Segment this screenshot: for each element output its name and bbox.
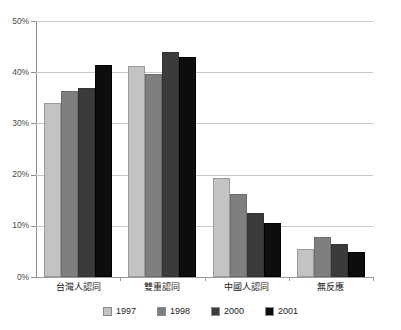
y-tick-mark	[31, 123, 36, 124]
plot-area	[36, 21, 373, 277]
bar-group	[297, 21, 365, 277]
bar-2000-中國人認同[interactable]	[247, 213, 264, 277]
y-tick-mark	[31, 226, 36, 227]
bar-group	[44, 21, 112, 277]
legend-label: 2001	[278, 306, 298, 316]
legend-label: 1998	[170, 306, 190, 316]
bar-2000-無反應[interactable]	[331, 244, 348, 277]
legend-label: 2000	[224, 306, 244, 316]
category-axis-labels: 台灣人認同雙重認同中國人認同無反應	[36, 280, 373, 296]
x-tick-mark	[289, 277, 290, 281]
category-label-4: 無反應	[289, 280, 373, 294]
bar-2000-台灣人認同[interactable]	[78, 88, 95, 277]
legend-swatch-icon	[157, 307, 166, 316]
bar-1997-中國人認同[interactable]	[213, 178, 230, 277]
x-tick-mark	[373, 277, 374, 281]
bar-2001-台灣人認同[interactable]	[95, 65, 112, 277]
bar-2001-雙重認同[interactable]	[179, 57, 196, 277]
legend-label: 1997	[116, 306, 136, 316]
category-label-1: 台灣人認同	[36, 280, 120, 294]
x-tick-mark	[120, 277, 121, 281]
y-tick-label: 0%	[1, 273, 29, 282]
y-tick-mark	[31, 72, 36, 73]
bar-group	[128, 21, 196, 277]
legend-item-2001[interactable]: 2001	[265, 306, 298, 316]
y-tick-label: 10%	[1, 221, 29, 230]
bar-2001-中國人認同[interactable]	[264, 223, 281, 277]
bar-1997-台灣人認同[interactable]	[44, 103, 61, 277]
bar-2000-雙重認同[interactable]	[162, 52, 179, 277]
x-tick-mark	[205, 277, 206, 281]
category-label-3: 中國人認同	[205, 280, 289, 294]
y-tick-label: 40%	[1, 68, 29, 77]
y-tick-mark	[31, 277, 36, 278]
bar-1998-台灣人認同[interactable]	[61, 91, 78, 277]
legend-item-1998[interactable]: 1998	[157, 306, 190, 316]
bar-1997-雙重認同[interactable]	[128, 66, 145, 277]
legend-swatch-icon	[211, 307, 220, 316]
bar-2001-無反應[interactable]	[348, 252, 365, 277]
legend-item-1997[interactable]: 1997	[103, 306, 136, 316]
category-label-2: 雙重認同	[120, 280, 204, 294]
chart-legend: 1997199820002001	[0, 303, 401, 319]
legend-swatch-icon	[265, 307, 274, 316]
legend-item-2000[interactable]: 2000	[211, 306, 244, 316]
y-tick-mark	[31, 175, 36, 176]
bar-1998-中國人認同[interactable]	[230, 194, 247, 277]
bar-1998-雙重認同[interactable]	[145, 74, 162, 277]
legend-swatch-icon	[103, 307, 112, 316]
bar-chart: 50%40%30%20%10%0% 台灣人認同雙重認同中國人認同無反應 1997…	[0, 0, 401, 330]
bar-group	[213, 21, 281, 277]
bar-1998-無反應[interactable]	[314, 237, 331, 277]
bar-1997-無反應[interactable]	[297, 249, 314, 277]
y-tick-label: 30%	[1, 119, 29, 128]
y-tick-label: 50%	[1, 17, 29, 26]
y-tick-mark	[31, 21, 36, 22]
y-axis-labels: 50%40%30%20%10%0%	[0, 0, 29, 330]
y-tick-label: 20%	[1, 170, 29, 179]
